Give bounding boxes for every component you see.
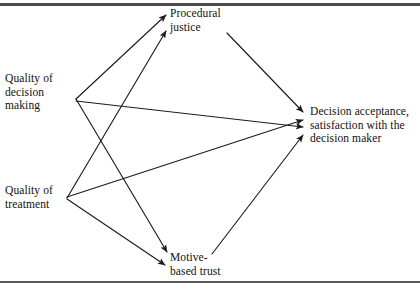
edge-qdm-to-da [76,101,303,127]
node-quality-of-treatment: Quality of treatment [5,184,85,211]
node-procedural-justice: Procedural justice [170,7,265,34]
node-motive-based-trust: Motive- based trust [170,251,260,278]
edge-mbt-to-da [212,135,303,254]
node-quality-of-decision-making: Quality of decision making [5,72,85,113]
edge-qt-to-da [67,120,303,197]
node-decision-acceptance: Decision acceptance, satisfaction with t… [310,105,418,146]
edge-qdm-to-pj [76,15,166,99]
edge-qdm-to-mbt [76,99,167,252]
edge-pj-to-da [227,33,303,112]
path-diagram-figure: Procedural justice Quality of decision m… [0,0,420,290]
edge-qt-to-pj [67,31,166,198]
